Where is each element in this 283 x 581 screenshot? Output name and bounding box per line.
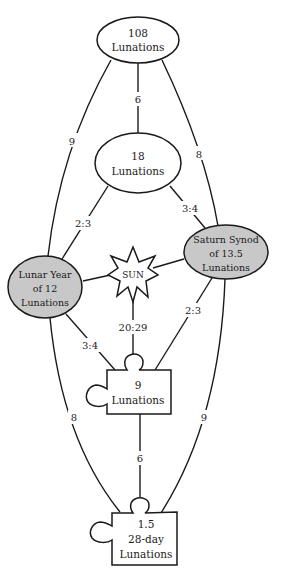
- node-9-line2: Lunations: [112, 394, 165, 406]
- edge-label-108-saturn: 8: [196, 149, 202, 160]
- edge-label-saturn-1-5: 9: [201, 412, 207, 423]
- edge-label-sun-9: 20:29: [119, 322, 148, 333]
- edge-label-9-1-5: 6: [137, 453, 143, 464]
- edge-label-108-18: 6: [135, 94, 141, 105]
- node-1-5-line3: Lunations: [120, 548, 173, 560]
- node-18-line2: Lunations: [112, 165, 165, 177]
- node-1-5-line2: 28-day: [128, 533, 164, 545]
- edge-label-lunar-year-9: 3:4: [82, 340, 98, 351]
- node-saturn-line2: of 13.5: [209, 248, 242, 259]
- node-saturn-synod: Saturn Synod of 13.5 Lunations: [184, 225, 268, 279]
- edge-saturn-9: [155, 278, 212, 370]
- edge-label-18-saturn: 3:4: [182, 203, 198, 214]
- node-saturn-line3: Lunations: [202, 262, 250, 273]
- node-lunar-year-line3: Lunations: [21, 297, 69, 308]
- node-1-5-line1: 1.5: [138, 518, 155, 530]
- node-18-line1: 18: [131, 150, 144, 162]
- edge-label-18-lunar-year: 2:3: [75, 218, 91, 229]
- node-lunar-year: Lunar Year of 12 Lunations: [8, 256, 82, 318]
- edge-saturn-sun: [153, 259, 184, 268]
- edge-label-lunar-year-1-5: 8: [71, 412, 77, 423]
- edge-label-108-lunar-year: 9: [69, 136, 75, 147]
- node-sun: SUN: [108, 247, 158, 302]
- node-lunar-year-line1: Lunar Year: [18, 269, 72, 280]
- edge-label-saturn-9: 2:3: [185, 305, 201, 316]
- node-18-lunations: 18 Lunations: [95, 133, 181, 193]
- node-sun-label: SUN: [122, 270, 144, 280]
- node-108-line2: Lunations: [112, 41, 165, 53]
- node-108-lunations: 108 Lunations: [97, 17, 179, 63]
- node-saturn-line1: Saturn Synod: [193, 234, 259, 245]
- node-lunar-year-line2: of 12: [33, 283, 57, 294]
- node-9-lunations: 9 Lunations: [86, 354, 171, 414]
- node-108-line1: 108: [128, 27, 148, 39]
- lunation-ratio-diagram: 6 9 8 2:3 3:4 20:29 3:4 2:3 8 9 6 108 Lu…: [0, 0, 283, 581]
- node-9-line1: 9: [135, 379, 142, 391]
